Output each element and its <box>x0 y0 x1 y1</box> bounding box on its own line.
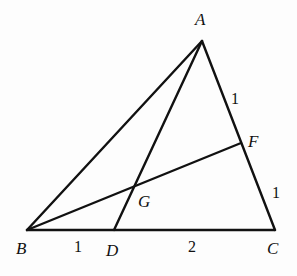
geometry-diagram: A B D C F G 1 1 1 2 <box>0 0 297 276</box>
label-point-c: C <box>267 239 279 258</box>
label-point-a: A <box>194 10 206 29</box>
segment-ac <box>202 41 275 230</box>
label-point-g: G <box>138 192 150 211</box>
length-fc: 1 <box>272 184 280 201</box>
length-af: 1 <box>231 90 239 107</box>
label-point-f: F <box>247 132 259 151</box>
label-point-b: B <box>16 239 27 258</box>
label-point-d: D <box>105 241 119 260</box>
segment-ab <box>27 41 202 230</box>
triangle-figure: A B D C F G 1 1 1 2 <box>0 0 297 276</box>
length-bd: 1 <box>74 238 82 255</box>
length-dc: 2 <box>188 238 196 255</box>
segment-bf <box>27 143 241 230</box>
segment-ad <box>114 41 202 230</box>
